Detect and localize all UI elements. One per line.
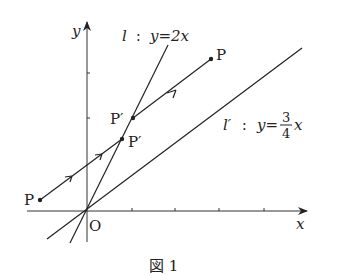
segment-upper [133, 59, 211, 118]
line-l-prime-eq-right: x [294, 116, 303, 134]
y-axis-label: y [71, 22, 81, 40]
line-l [70, 45, 168, 243]
figure-caption: 図 1 [149, 257, 178, 275]
line-l-prime-eq-left: y= [256, 116, 278, 134]
point-p-prime-lower [120, 137, 124, 141]
line-l-prime-name: l′ [223, 116, 232, 134]
point-p-left-label: P [24, 191, 34, 209]
fraction-numerator: 3 [282, 110, 290, 125]
point-p-prime-lower-label: P′ [128, 133, 142, 151]
line-l-name: l [122, 27, 127, 45]
line-l-prime-sep: : [242, 117, 247, 133]
x-axis-label: x [296, 215, 305, 233]
line-l-equation: y=2x [149, 27, 190, 45]
point-p-upper [209, 57, 213, 61]
point-p-upper-label: P [216, 46, 226, 64]
diagram: y x O l : y=2x P P′ P′ P l′ : y= 3 4 x 図… [0, 0, 339, 276]
fraction-denominator: 4 [282, 126, 290, 141]
point-p-prime-upper-label: P′ [110, 110, 124, 128]
line-l-sep: : [136, 28, 141, 44]
point-p-prime-upper [131, 116, 135, 120]
segment-lower [40, 139, 122, 200]
point-p-left [38, 198, 42, 202]
origin-label: O [89, 217, 101, 235]
